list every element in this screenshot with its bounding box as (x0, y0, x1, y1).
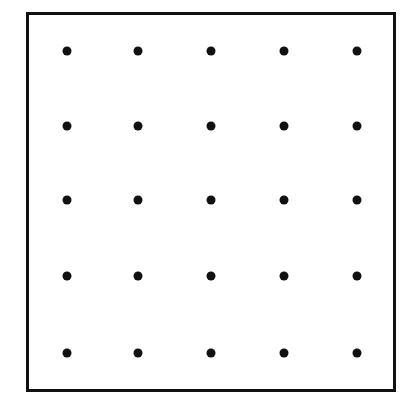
grid-dot (207, 47, 216, 56)
grid-dot (353, 349, 362, 358)
grid-dot (280, 196, 289, 205)
grid-dot (207, 196, 216, 205)
grid-dot (63, 196, 72, 205)
grid-dot (63, 349, 72, 358)
grid-dot (353, 272, 362, 281)
grid-dot (353, 122, 362, 131)
grid-dot (280, 47, 289, 56)
grid-dot (134, 122, 143, 131)
grid-dot (280, 349, 289, 358)
grid-dot (134, 272, 143, 281)
grid-dot (207, 122, 216, 131)
grid-dot (353, 196, 362, 205)
grid-dot (207, 272, 216, 281)
grid-dot (134, 349, 143, 358)
grid-dot (134, 196, 143, 205)
grid-dot (207, 349, 216, 358)
grid-dot (63, 272, 72, 281)
grid-dot (134, 47, 143, 56)
grid-dot (280, 272, 289, 281)
grid-dot (63, 47, 72, 56)
grid-dot (353, 47, 362, 56)
grid-dot (63, 122, 72, 131)
grid-dot (280, 122, 289, 131)
